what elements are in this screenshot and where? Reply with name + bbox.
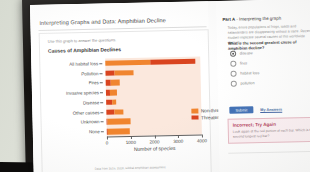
feedback-divider: [228, 151, 310, 154]
legend-swatch: [191, 109, 198, 114]
y-axis-tick: [100, 83, 103, 84]
bar-segment-threatened: [106, 109, 114, 115]
bar-segment-non-threatened: [114, 109, 123, 115]
bar-group: [105, 59, 195, 66]
answer-option-label: pollution: [240, 81, 254, 85]
y-axis-tick: [100, 112, 103, 113]
x-axis-tick-label: 1000: [126, 139, 136, 144]
submit-button[interactable]: Submit: [229, 106, 253, 114]
action-row: Submit My Answers: [229, 106, 282, 114]
y-axis-label: Invasive species: [66, 90, 99, 96]
y-axis-label: Disease: [83, 100, 99, 105]
x-axis-tick-label: 4000: [197, 138, 207, 143]
bar-group: [106, 80, 120, 86]
bar-group: [105, 70, 133, 76]
part-label: Part A: [222, 17, 235, 22]
y-axis-tick: [101, 122, 104, 123]
answer-option-label: disease: [240, 51, 253, 55]
y-axis-tick: [100, 73, 103, 74]
feedback-body: Look again at the red portion of each ba…: [233, 128, 310, 140]
radio-button-icon[interactable]: [230, 61, 236, 67]
bar-segment-non-threatened: [112, 99, 117, 104]
instruction-text: Use this graph to answer the questions.: [48, 35, 198, 43]
bar-segment-non-threatened: [108, 119, 131, 125]
feedback-box: Incorrect; Try Again Look again at the r…: [228, 117, 310, 144]
y-axis-label: None: [89, 129, 100, 134]
bar-segment-threatened: [105, 70, 114, 76]
x-axis-tick: [202, 134, 203, 137]
bar-chart: All habitat lossPollutionFiresInvasive s…: [46, 54, 206, 163]
x-axis-tick: [154, 135, 155, 138]
x-axis-tick: [131, 136, 132, 139]
y-axis-label: All habitat loss: [69, 61, 98, 67]
radio-button-icon[interactable]: [230, 51, 236, 57]
part-heading: Part A - Interpreting the graph: [222, 15, 310, 22]
bar-segment-non-threatened: [110, 90, 117, 96]
x-axis-tick-label: 0: [106, 140, 109, 145]
answer-options[interactable]: diseasefireshabitat losspollution: [230, 47, 310, 89]
y-axis-label: Other causes: [73, 110, 100, 116]
x-axis-tick: [178, 135, 179, 138]
bar-group: [106, 90, 117, 96]
bar-segment-non-threatened: [114, 70, 133, 76]
x-axis-tick-label: 3000: [173, 138, 183, 143]
bar-segment-non-threatened: [111, 80, 120, 86]
part-title: - Interpreting the graph: [236, 16, 281, 22]
answer-option-label: habitat loss: [240, 71, 259, 75]
y-axis-tick: [99, 63, 102, 64]
feedback-title: Incorrect; Try Again: [233, 121, 310, 128]
x-axis-title: Number of species: [107, 144, 202, 152]
bar-group: [107, 119, 132, 125]
plot-area: Non-threatened speciesThreatened species: [105, 56, 202, 136]
my-answers-link[interactable]: My Answers: [260, 107, 282, 111]
graph-column: Interpreting Graphs and Data: Amphibian …: [30, 1, 212, 172]
page-title: Interpreting Graphs and Data: Amphibian …: [39, 16, 205, 26]
device-screen: Interpreting Graphs and Data: Amphibian …: [30, 0, 310, 172]
x-axis-tick-label: 2000: [149, 139, 159, 144]
bar-segment-non-threatened: [108, 128, 130, 134]
bar-segment-threatened: [150, 59, 195, 65]
graph-panel: Use this graph to answer the questions. …: [39, 29, 212, 172]
y-axis-tick: [100, 92, 103, 93]
bar-segment-non-threatened: [105, 60, 150, 66]
chart-title: Causes of Amphibian Declines: [48, 46, 121, 54]
legend-swatch: [191, 115, 198, 120]
radio-button-icon[interactable]: [231, 71, 237, 77]
y-axis-labels: All habitat lossPollutionFiresInvasive s…: [46, 59, 104, 138]
bar-group: [106, 99, 116, 105]
y-axis-tick: [101, 131, 104, 132]
bar-group: [106, 109, 123, 115]
x-axis-tick: [107, 136, 108, 139]
y-axis-tick: [100, 102, 103, 103]
bar-group: [107, 128, 130, 134]
source-caption: Data from 2016, 2018, Global amphibian a…: [95, 164, 207, 170]
answer-option-label: fires: [240, 61, 247, 65]
y-axis-label: Fires: [89, 81, 99, 86]
answer-option[interactable]: pollution: [231, 77, 310, 89]
y-axis-label: Pollution: [81, 71, 98, 76]
question-column: Part A - Interpreting the graph Today, e…: [216, 0, 310, 172]
y-axis-label: Unknown: [81, 120, 100, 125]
lesson-page: Interpreting Graphs and Data: Amphibian …: [30, 0, 310, 172]
radio-button-icon[interactable]: [231, 81, 237, 87]
